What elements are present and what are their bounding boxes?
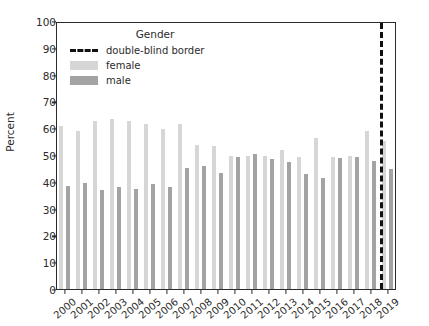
bar-male-2003 bbox=[117, 187, 121, 289]
bar-female-2017 bbox=[348, 156, 352, 289]
x-tick-mark bbox=[319, 290, 320, 294]
x-tick-mark bbox=[234, 290, 235, 294]
y-tick-mark bbox=[52, 48, 56, 49]
bar-female-2009 bbox=[212, 146, 216, 289]
bar-female-2002 bbox=[93, 121, 97, 289]
x-tick-mark bbox=[387, 290, 388, 294]
bar-male-2007 bbox=[185, 168, 189, 289]
bar-male-2011 bbox=[253, 154, 257, 289]
bar-male-2008 bbox=[202, 166, 206, 289]
y-tick-label: 10 bbox=[4, 257, 56, 269]
bar-male-2000 bbox=[66, 186, 70, 289]
y-tick-mark bbox=[52, 21, 56, 22]
double-blind-border-line bbox=[380, 23, 383, 289]
x-tick-mark bbox=[268, 290, 269, 294]
legend-title: Gender bbox=[70, 28, 230, 40]
x-tick-mark bbox=[336, 290, 337, 294]
x-tick-mark bbox=[251, 290, 252, 294]
bar-female-2004 bbox=[127, 121, 131, 289]
legend-entry: female bbox=[70, 58, 230, 73]
legend-swatch-female bbox=[70, 61, 98, 70]
bar-male-2015 bbox=[321, 178, 325, 289]
legend-label: female bbox=[106, 60, 140, 71]
y-tick-mark bbox=[52, 102, 56, 103]
x-tick-mark bbox=[200, 290, 201, 294]
bar-male-2016 bbox=[338, 158, 342, 289]
x-tick-mark bbox=[183, 290, 184, 294]
y-tick-mark bbox=[52, 289, 56, 290]
x-tick-mark bbox=[370, 290, 371, 294]
x-tick-mark bbox=[217, 290, 218, 294]
bar-female-2005 bbox=[144, 124, 148, 289]
bar-male-2013 bbox=[287, 162, 291, 289]
bar-male-2001 bbox=[83, 183, 87, 289]
y-tick-mark bbox=[52, 182, 56, 183]
legend-swatch-double-blind-border bbox=[70, 49, 98, 52]
legend-label: male bbox=[106, 75, 131, 86]
bar-female-2014 bbox=[297, 157, 301, 289]
bar-female-2001 bbox=[76, 131, 80, 289]
legend: Gender double-blind borderfemalemale bbox=[70, 28, 230, 88]
x-tick-mark bbox=[353, 290, 354, 294]
bar-male-2012 bbox=[270, 159, 274, 289]
bar-male-2006 bbox=[168, 187, 172, 289]
bar-male-2018 bbox=[372, 161, 376, 289]
bar-male-2010 bbox=[236, 157, 240, 289]
y-tick-label: 30 bbox=[4, 204, 56, 216]
bar-female-2015 bbox=[314, 138, 318, 289]
bar-female-2003 bbox=[110, 119, 114, 289]
y-tick-mark bbox=[52, 155, 56, 156]
bar-male-2009 bbox=[219, 173, 223, 289]
y-tick-mark bbox=[52, 263, 56, 264]
x-tick-mark bbox=[64, 290, 65, 294]
y-tick-label: 20 bbox=[4, 230, 56, 242]
bar-female-2010 bbox=[229, 156, 233, 289]
bar-female-2000 bbox=[59, 126, 63, 289]
bar-female-2012 bbox=[263, 156, 267, 289]
y-tick-mark bbox=[52, 236, 56, 237]
bar-female-2006 bbox=[161, 129, 165, 289]
legend-label: double-blind border bbox=[106, 45, 204, 56]
bar-female-2007 bbox=[178, 124, 182, 289]
y-tick-mark bbox=[52, 209, 56, 210]
bar-male-2004 bbox=[134, 189, 138, 289]
x-tick-mark bbox=[302, 290, 303, 294]
bar-male-2002 bbox=[100, 190, 104, 289]
y-tick-label: 0 bbox=[4, 284, 56, 296]
bar-female-2013 bbox=[280, 150, 284, 289]
bar-male-2005 bbox=[151, 184, 155, 289]
y-axis-label: Percent bbox=[4, 72, 16, 192]
bar-female-2016 bbox=[331, 157, 335, 289]
bar-female-2011 bbox=[246, 156, 250, 289]
legend-entries: double-blind borderfemalemale bbox=[70, 43, 230, 88]
x-tick-mark bbox=[285, 290, 286, 294]
y-tick-label: 100 bbox=[4, 16, 56, 28]
x-axis: 2000200120022003200420052006200720082009… bbox=[56, 290, 396, 326]
x-tick-mark bbox=[81, 290, 82, 294]
bar-male-2019 bbox=[389, 169, 393, 289]
y-tick-label: 90 bbox=[4, 43, 56, 55]
y-tick-mark bbox=[52, 129, 56, 130]
legend-entry: male bbox=[70, 73, 230, 88]
bar-male-2014 bbox=[304, 174, 308, 289]
x-tick-mark bbox=[149, 290, 150, 294]
x-tick-mark bbox=[132, 290, 133, 294]
legend-swatch-male bbox=[70, 76, 98, 85]
bar-male-2017 bbox=[355, 157, 359, 289]
y-tick-mark bbox=[52, 75, 56, 76]
bar-female-2018 bbox=[365, 131, 369, 289]
x-tick-mark bbox=[166, 290, 167, 294]
x-tick-mark bbox=[115, 290, 116, 294]
legend-entry: double-blind border bbox=[70, 43, 230, 58]
chart-figure: 0102030405060708090100 Percent 200020012… bbox=[0, 0, 429, 326]
bar-female-2008 bbox=[195, 145, 199, 289]
x-tick-mark bbox=[98, 290, 99, 294]
